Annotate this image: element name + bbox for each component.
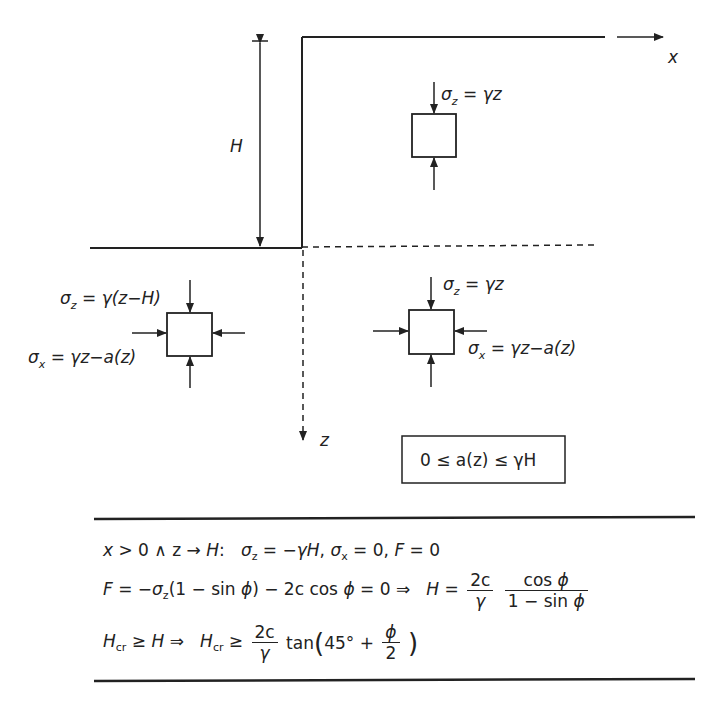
height-label: H [230,136,243,156]
bottom-rule [94,679,695,681]
right-sigma-z: σz = γz [443,274,505,298]
constraint-text: 0 ≤ a(z) ≤ γH [420,450,536,470]
equation-line-3: Hcr ≥ H ⇒ Hcr ≥ 2cγ tan(45° + ϕ2 ) [103,622,418,663]
ground-profile [90,37,605,248]
equation-line-1: x > 0 ∧ z → H: σz = −γH, σx = 0, F = 0 [103,540,440,563]
height-dimension [252,41,268,246]
equation-line-2: F = −σz(1 − sin ϕ) − 2c cos ϕ = 0 ⇒ H = … [103,570,591,611]
left-sigma-z: σz = γ(z−H) [60,288,161,312]
top-rule [94,517,695,519]
right-sigma-x: σx = γz−a(z) [468,338,576,362]
x-axis-label: x [667,47,679,67]
left-sigma-x: σx = γz−a(z) [28,347,136,371]
top-sigma-z: σz = γz [441,84,503,108]
z-axis-label: z [319,430,330,450]
